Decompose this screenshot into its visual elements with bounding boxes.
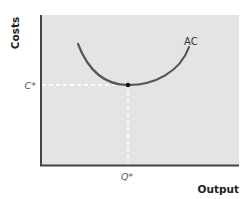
c-star-label: C* xyxy=(25,80,37,91)
y-axis-label: Costs xyxy=(9,17,21,49)
plot-area xyxy=(40,15,239,166)
q-star-label: Q* xyxy=(121,171,133,182)
ac-curve-label: AC xyxy=(184,36,198,47)
minimum-point xyxy=(126,83,131,88)
x-axis-label: Output xyxy=(198,183,239,195)
average-cost-chart: Costs Output C* Q* AC xyxy=(0,0,246,199)
